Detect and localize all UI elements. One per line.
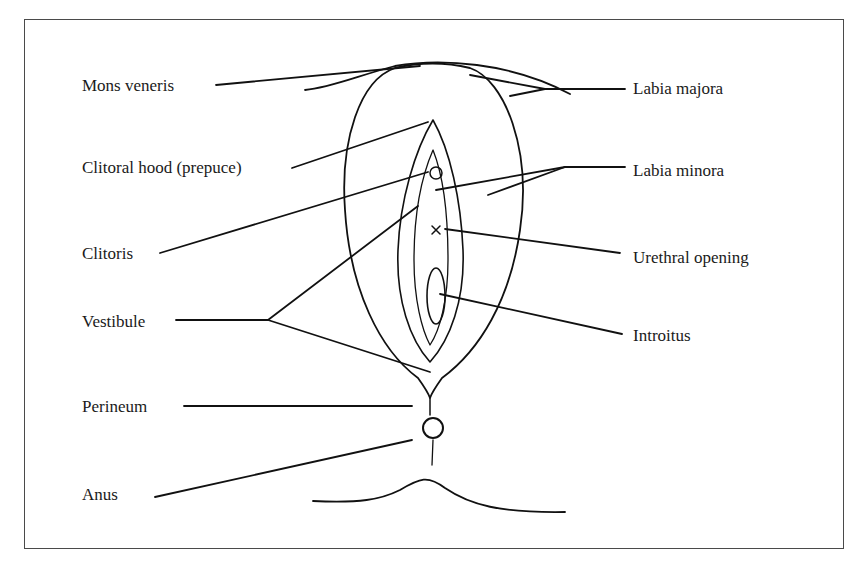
label-anus: Anus: [82, 485, 118, 505]
leader-mons-veneris: [216, 66, 420, 85]
label-labia-majora: Labia majora: [633, 79, 723, 99]
leader-labia-majora-b: [510, 89, 545, 96]
introitus-marker: [427, 268, 445, 324]
label-labia-minora: Labia minora: [633, 161, 724, 181]
leader-urethral-opening: [445, 229, 620, 253]
leader-anus: [155, 440, 412, 497]
urethral-marker: [432, 226, 440, 234]
leader-labia-minora-a: [436, 167, 625, 190]
label-clitoris: Clitoris: [82, 244, 133, 264]
leader-labia-minora-b: [488, 167, 565, 195]
leader-clitoris: [160, 172, 428, 253]
leader-lines: [155, 66, 625, 497]
label-introitus: Introitus: [633, 326, 691, 346]
label-vestibule: Vestibule: [82, 312, 145, 332]
leader-vestibule-lower: [268, 320, 430, 372]
leader-clitoral-hood: [292, 122, 428, 168]
label-urethral-opening: Urethral opening: [633, 248, 749, 268]
anus-marker: [423, 418, 443, 438]
label-mons-veneris: Mons veneris: [82, 76, 174, 96]
leader-vestibule-upper: [176, 206, 418, 320]
mons-outline: [305, 62, 570, 94]
outer-outline: [344, 64, 523, 399]
label-perineum: Perineum: [82, 397, 147, 417]
leader-introitus: [440, 294, 622, 334]
buttock-curve: [313, 480, 565, 513]
label-clitoral-hood: Clitoral hood (prepuce): [82, 158, 242, 178]
